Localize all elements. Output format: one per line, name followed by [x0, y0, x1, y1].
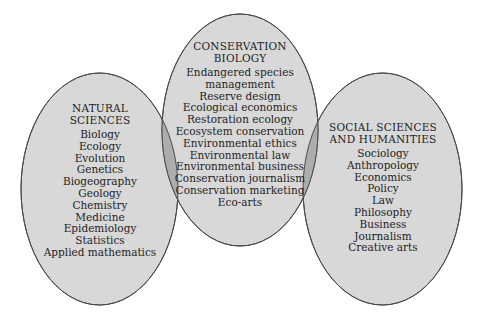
social-sciences-heading: SOCIAL SCIENCES AND HUMANITIES: [303, 121, 463, 145]
list-item: Environmental ethics: [160, 138, 320, 150]
list-item: Chemistry: [21, 200, 179, 212]
conservation-biology-label: CONSERVATION BIOLOGY Endangered speciesm…: [160, 40, 320, 209]
heading-line: SOCIAL SCIENCES: [303, 121, 463, 133]
natural-sciences-items: BiologyEcologyEvolutionGeneticsBiogeogra…: [21, 129, 179, 259]
heading-line: CONSERVATION: [160, 40, 320, 52]
heading-line: SCIENCES: [21, 114, 179, 126]
list-item: Business: [303, 219, 463, 231]
heading-line: AND HUMANITIES: [303, 133, 463, 145]
social-sciences-items: SociologyAnthropologyEconomicsPolicyLawP…: [303, 148, 463, 254]
heading-line: NATURAL: [21, 102, 179, 114]
list-item: Ecology: [21, 141, 179, 153]
list-item: Conservation marketing: [160, 185, 320, 197]
natural-sciences-label: NATURAL SCIENCES BiologyEcologyEvolution…: [21, 102, 179, 259]
list-item: Anthropology: [303, 160, 463, 172]
list-item: Applied mathematics: [21, 247, 179, 259]
list-item: Eco-arts: [160, 197, 320, 209]
social-sciences-label: SOCIAL SCIENCES AND HUMANITIES Sociology…: [303, 121, 463, 254]
list-item: Geology: [21, 188, 179, 200]
list-item: management: [160, 79, 320, 91]
list-item: Philosophy: [303, 207, 463, 219]
list-item: Ecosystem conservation: [160, 126, 320, 138]
conservation-biology-items: Endangered speciesmanagementReserve desi…: [160, 67, 320, 209]
natural-sciences-heading: NATURAL SCIENCES: [21, 102, 179, 126]
list-item: Creative arts: [303, 242, 463, 254]
conservation-biology-heading: CONSERVATION BIOLOGY: [160, 40, 320, 64]
heading-line: BIOLOGY: [160, 52, 320, 64]
